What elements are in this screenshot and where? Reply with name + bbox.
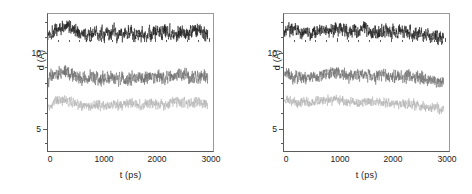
x-tick-2600: [187, 40, 188, 42]
y-tick-8: [45, 83, 47, 84]
x-tick-2000: [155, 38, 156, 42]
x-tick-2200: [166, 40, 167, 42]
x-ticklabel-3000: 3000: [438, 154, 457, 164]
x-ticklabel-2000: 2000: [148, 154, 167, 164]
x-tick-3000: [209, 38, 210, 42]
x-tick-200: [58, 40, 59, 42]
x-tick-1800: [144, 40, 145, 42]
y-tick-9: [281, 67, 283, 68]
y-tick-12: [281, 22, 283, 23]
series-distance-trace-3: [48, 95, 208, 111]
y-tick-7: [281, 98, 283, 99]
x-tick-2200: [402, 40, 403, 42]
y-tick-11: [45, 37, 47, 38]
x-tick-600: [315, 40, 316, 42]
x-tick-1200: [112, 40, 113, 42]
x-tick-200: [294, 40, 295, 42]
x-tick-2600: [423, 40, 424, 42]
y-axis-label: d (Å): [36, 33, 46, 87]
x-tick-1800: [380, 40, 381, 42]
x-tick-3000: [445, 38, 446, 42]
x-ticklabel-1000: 1000: [95, 154, 114, 164]
x-tick-400: [305, 40, 306, 42]
plot-area: [283, 13, 450, 152]
x-tick-0: [283, 38, 284, 42]
x-tick-2800: [434, 40, 435, 42]
x-tick-600: [79, 40, 80, 42]
x-tick-1000: [101, 38, 102, 42]
y-ticklabel-10: 10: [262, 48, 277, 58]
x-ticklabel-1000: 1000: [331, 154, 350, 164]
x-tick-2800: [198, 40, 199, 42]
series-distance-trace-3: [284, 95, 444, 115]
y-ticklabel-10: 10: [26, 48, 41, 58]
y-axis-label: d (Å): [272, 33, 282, 87]
y-tick-6: [45, 113, 47, 114]
x-tick-1200: [348, 40, 349, 42]
y-tick-10: [279, 53, 283, 54]
x-tick-0: [47, 38, 48, 42]
y-tick-7: [45, 98, 47, 99]
plot-area: [47, 13, 214, 152]
series-distance-trace-1: [48, 20, 208, 43]
x-tick-1400: [358, 40, 359, 42]
y-tick-12: [45, 22, 47, 23]
y-tick-11: [281, 37, 283, 38]
x-ticklabel-2000: 2000: [384, 154, 403, 164]
y-tick-4: [281, 143, 283, 144]
trace-layer: [284, 14, 449, 151]
x-tick-400: [69, 40, 70, 42]
x-tick-1600: [133, 40, 134, 42]
y-ticklabel-5: 5: [262, 124, 277, 134]
x-ticklabel-3000: 3000: [202, 154, 221, 164]
series-distance-trace-2: [284, 67, 444, 87]
two-panel-distance-figure: d (Å) t (ps) 10 5 0 1000 2000 3000 d (Å)…: [0, 0, 472, 194]
y-tick-5: [279, 129, 283, 130]
trace-layer: [48, 14, 213, 151]
x-tick-800: [326, 40, 327, 42]
x-tick-1400: [122, 40, 123, 42]
x-axis-label: t (ps): [283, 170, 450, 180]
x-tick-1600: [369, 40, 370, 42]
plot-panel-right: d (Å) t (ps) 10 5 0 1000 2000 3000: [236, 0, 472, 194]
y-tick-10: [43, 53, 47, 54]
y-tick-6: [281, 113, 283, 114]
y-tick-4: [45, 143, 47, 144]
x-tick-2400: [412, 40, 413, 42]
x-tick-2400: [176, 40, 177, 42]
x-axis-label: t (ps): [47, 170, 214, 180]
x-tick-1000: [337, 38, 338, 42]
series-distance-trace-1: [284, 21, 444, 45]
plot-panel-left: d (Å) t (ps) 10 5 0 1000 2000 3000: [0, 0, 236, 194]
x-tick-800: [90, 40, 91, 42]
y-ticklabel-5: 5: [26, 124, 41, 134]
x-ticklabel-0: 0: [48, 154, 53, 164]
x-tick-2000: [391, 38, 392, 42]
x-ticklabel-0: 0: [284, 154, 289, 164]
y-tick-5: [43, 129, 47, 130]
y-tick-9: [45, 67, 47, 68]
y-tick-8: [281, 83, 283, 84]
series-distance-trace-2: [48, 65, 208, 87]
